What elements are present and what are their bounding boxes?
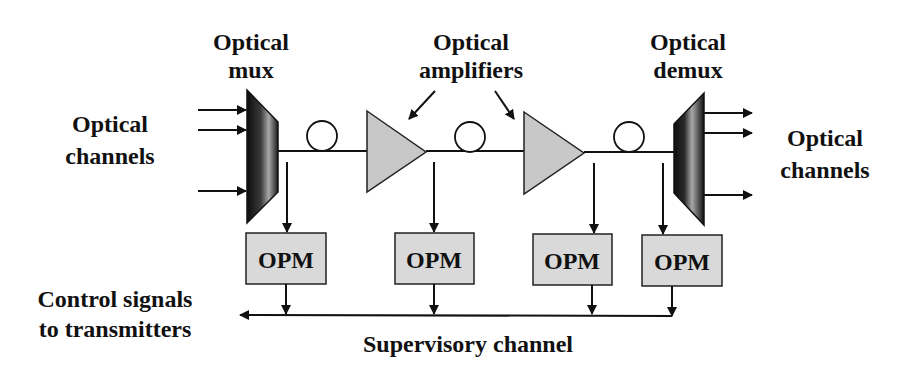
- supervisory-channel-label: Supervisory channel: [363, 331, 573, 357]
- opm-module-4: OPM: [642, 235, 722, 286]
- opm-module-1: OPM: [246, 233, 326, 284]
- opm-label: OPM: [258, 247, 314, 273]
- pointer-arrow-right: [495, 91, 514, 119]
- fiber-spool-icon: [614, 122, 644, 152]
- output-channels-line2: channels: [780, 157, 869, 183]
- mux-label: Optical mux: [213, 29, 289, 83]
- amplifier-pointers: [409, 91, 514, 119]
- control-signals-line1: Control signals: [38, 286, 193, 312]
- fiber-spool-icon: [455, 122, 485, 152]
- amplifier-icon: [524, 112, 584, 194]
- control-signals-label: Control signals to transmitters: [38, 286, 193, 342]
- input-channels-line1: Optical: [72, 111, 148, 137]
- pointer-arrow-left: [409, 91, 435, 119]
- tap-arrows: [287, 162, 663, 234]
- demux-label-line2: demux: [653, 57, 722, 83]
- demux-output-arrows: [704, 113, 752, 195]
- demux-label-line1: Optical: [650, 29, 726, 55]
- output-channels-line1: Optical: [787, 125, 863, 151]
- opm-label: OPM: [654, 249, 710, 275]
- wdm-link-diagram: Optical mux Optical amplifiers Optical d…: [0, 0, 900, 374]
- input-channels-label: Optical channels: [65, 111, 154, 169]
- mux-icon: [247, 90, 278, 223]
- opm-label: OPM: [406, 247, 462, 273]
- fiber-spools: [307, 121, 644, 152]
- opm-output-arrows: [286, 284, 672, 316]
- supervisory-bus: [240, 315, 672, 316]
- opm-label: OPM: [544, 248, 600, 274]
- amplifiers-label-line2: amplifiers: [419, 57, 523, 83]
- mux-label-line1: Optical: [213, 29, 289, 55]
- amplifier-icon: [367, 111, 426, 192]
- input-channels-line2: channels: [65, 143, 154, 169]
- output-channels-label: Optical channels: [780, 125, 869, 183]
- control-signals-line2: to transmitters: [39, 316, 192, 342]
- demux-label: Optical demux: [650, 29, 726, 83]
- mux-label-line2: mux: [228, 57, 273, 83]
- mux-input-arrows: [198, 110, 246, 191]
- fiber-spool-icon: [307, 121, 337, 151]
- amplifiers-label: Optical amplifiers: [419, 29, 523, 83]
- opm-module-2: OPM: [395, 233, 474, 284]
- opm-module-3: OPM: [533, 234, 612, 285]
- amplifiers-label-line1: Optical: [433, 29, 509, 55]
- demux-icon: [674, 93, 704, 225]
